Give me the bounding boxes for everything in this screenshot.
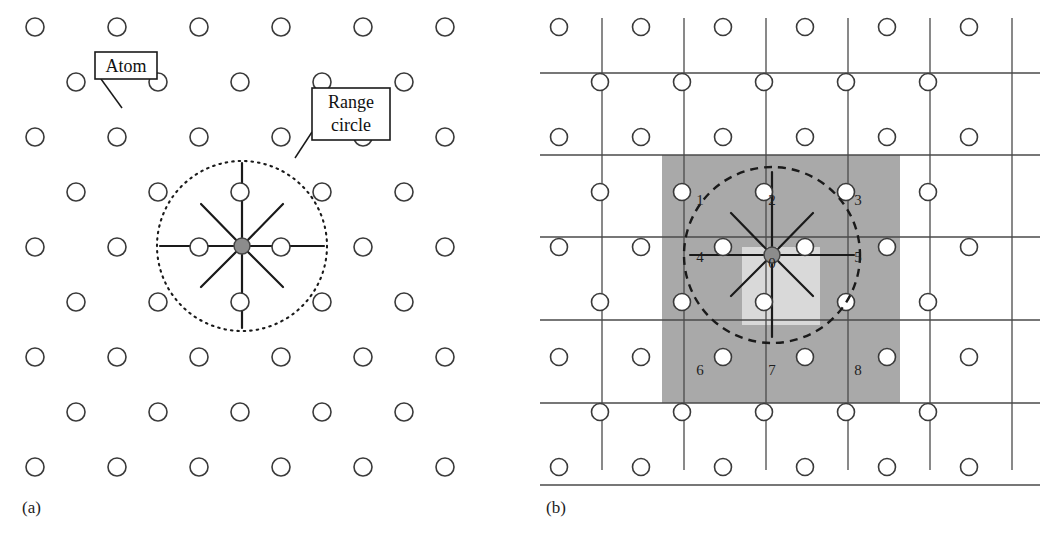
panel-a-atom-27 — [436, 238, 454, 256]
panel-a-atom-5 — [436, 18, 454, 36]
panel-a-atom-26 — [354, 238, 372, 256]
panel-a-atom-6 — [67, 73, 85, 91]
panel-b-atom-30 — [756, 294, 773, 311]
figure-svg: 123405678AtomRangecircle — [0, 0, 1048, 548]
panel-a-atom-18 — [149, 183, 167, 201]
panel-b-atom-36 — [797, 349, 814, 366]
panel-b-atom-42 — [838, 404, 855, 421]
panel-b-atom-24 — [715, 239, 732, 256]
panel-b-atom-21 — [920, 184, 937, 201]
panel-a-atom-39 — [67, 403, 85, 421]
panel-a-atom-0 — [26, 18, 44, 36]
cell-label-0: 0 — [768, 255, 776, 271]
panel-b-atom-14 — [797, 129, 814, 146]
panel-b-atom-25 — [797, 239, 814, 256]
panel-a-atom-46 — [190, 458, 208, 476]
panel-b-atom-11 — [551, 129, 568, 146]
panel-a-atom-2 — [190, 18, 208, 36]
panel-a-atom-49 — [436, 458, 454, 476]
panel-b-caption: (b) — [546, 498, 566, 518]
panel-b-atom-29 — [674, 294, 691, 311]
panel-b-atom-48 — [879, 459, 896, 476]
cell-label-2: 2 — [768, 192, 776, 208]
panel-a-atom-24 — [190, 238, 208, 256]
panel-b-atom-41 — [756, 404, 773, 421]
center-cell-highlight — [742, 247, 820, 325]
cell-label-6: 6 — [696, 362, 704, 378]
panel-b-atom-34 — [633, 349, 650, 366]
panel-a-atom-28 — [67, 293, 85, 311]
callout-text-range-circle-0: Range — [328, 92, 374, 112]
panel-b-atom-49 — [961, 459, 978, 476]
center-atom-panel-a — [234, 238, 250, 254]
panel-a-caption: (a) — [22, 498, 41, 518]
panel-b-atom-2 — [715, 19, 732, 36]
panel-b-atom-32 — [920, 294, 937, 311]
panel-b-atom-23 — [633, 239, 650, 256]
cell-label-8: 8 — [854, 362, 862, 378]
panel-b-atom-12 — [633, 129, 650, 146]
panel-a-atom-1 — [108, 18, 126, 36]
panel-b-atom-37 — [879, 349, 896, 366]
panel-a-atom-8 — [231, 73, 249, 91]
cell-label-3: 3 — [854, 192, 862, 208]
panel-a-atom-43 — [395, 403, 413, 421]
panel-a-atom-4 — [354, 18, 372, 36]
panel-a-atom-16 — [436, 128, 454, 146]
callout-leader-atom — [101, 79, 122, 108]
panel-b-atom-1 — [633, 19, 650, 36]
panel-a-atom-19 — [231, 183, 249, 201]
panel-a-atom-35 — [190, 348, 208, 366]
panel-a-atom-37 — [354, 348, 372, 366]
cell-label-7: 7 — [768, 362, 776, 378]
panel-a-atom-40 — [149, 403, 167, 421]
panel-b-atom-3 — [797, 19, 814, 36]
panel-b-atom-6 — [592, 74, 609, 91]
spoke-a-up-left — [201, 204, 242, 246]
panel-b-atom-5 — [961, 19, 978, 36]
panel-a-atom-42 — [313, 403, 331, 421]
panel-b-atom-27 — [961, 239, 978, 256]
callout-text-range-circle-1: circle — [331, 115, 371, 135]
panel-b-atom-22 — [551, 239, 568, 256]
panel-b-atom-4 — [879, 19, 896, 36]
panel-a-atom-11 — [26, 128, 44, 146]
panel-b-atom-35 — [715, 349, 732, 366]
panel-a-atom-41 — [231, 403, 249, 421]
panel-a-atom-36 — [272, 348, 290, 366]
panel-b-atom-26 — [879, 239, 896, 256]
panel-b-atom-28 — [592, 294, 609, 311]
panel-b-atom-7 — [674, 74, 691, 91]
panel-a-atom-33 — [26, 348, 44, 366]
panel-b-atom-15 — [879, 129, 896, 146]
panel-a-atom-30 — [231, 293, 249, 311]
panel-a-atom-23 — [108, 238, 126, 256]
panel-b-atom-44 — [551, 459, 568, 476]
panel-a-atom-21 — [395, 183, 413, 201]
panel-a-atom-31 — [313, 293, 331, 311]
panel-a-atom-12 — [108, 128, 126, 146]
panel-b-atom-9 — [838, 74, 855, 91]
panel-a-atom-47 — [272, 458, 290, 476]
panel-a-atom-10 — [395, 73, 413, 91]
panel-b-atom-8 — [756, 74, 773, 91]
panel-a-atom-13 — [190, 128, 208, 146]
panel-b-atom-13 — [715, 129, 732, 146]
panel-a-atom-14 — [272, 128, 290, 146]
panel-a-atom-48 — [354, 458, 372, 476]
panel-a-atom-38 — [436, 348, 454, 366]
panel-b-atom-40 — [674, 404, 691, 421]
cell-label-1: 1 — [696, 192, 704, 208]
panel-a-atom-32 — [395, 293, 413, 311]
panel-b-atom-17 — [592, 184, 609, 201]
panel-a-atom-29 — [149, 293, 167, 311]
panel-b-atom-18 — [674, 184, 691, 201]
panel-a-atom-44 — [26, 458, 44, 476]
callout-leader-range-circle — [295, 132, 312, 158]
panel-b-atom-38 — [961, 349, 978, 366]
figure-canvas: 123405678AtomRangecircle (a) (b) — [0, 0, 1048, 548]
panel-a-atom-34 — [108, 348, 126, 366]
panel-a-atom-22 — [26, 238, 44, 256]
panel-a-atom-45 — [108, 458, 126, 476]
panel-b-atom-45 — [633, 459, 650, 476]
